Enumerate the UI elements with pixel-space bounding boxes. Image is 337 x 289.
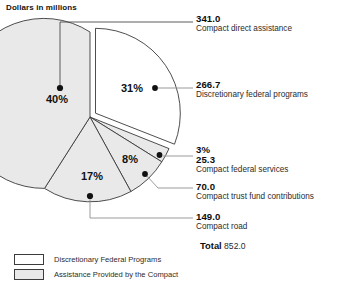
callout-desc-compact-road: Compact road xyxy=(196,222,247,232)
chart-legend: Discretionary Federal Programs Assistanc… xyxy=(14,252,178,282)
callout-desc-federal-services: Compact federal services xyxy=(196,165,288,175)
total-value: 852.0 xyxy=(224,241,246,251)
slice-label-40-percent: 40% xyxy=(46,93,68,105)
total-row: Total 852.0 xyxy=(200,240,246,251)
callout-value-trust-fund: 70.0 xyxy=(196,182,314,192)
legend-label-compact-assistance: Assistance Provided by the Compact xyxy=(54,270,178,279)
slice-label-31-percent: 31% xyxy=(121,82,143,94)
total-label: Total xyxy=(200,240,222,251)
callout-value-discretionary: 266.7 xyxy=(196,80,308,90)
pie-chart-figure: Dollars in millions xyxy=(0,0,337,289)
callout-desc-trust-fund: Compact trust fund contributions xyxy=(196,192,314,202)
callout-compact-road: 149.0 Compact road xyxy=(196,212,247,232)
legend-swatch-compact xyxy=(14,269,44,280)
callout-compact-federal-services: 3% 25.3 Compact federal services xyxy=(196,145,288,175)
legend-item-compact-assistance[interactable]: Assistance Provided by the Compact xyxy=(14,267,178,281)
callout-value-direct-assistance: 341.0 xyxy=(196,14,292,24)
callout-discretionary-federal-programs: 266.7 Discretionary federal programs xyxy=(196,80,308,100)
callout-value-compact-road: 149.0 xyxy=(196,212,247,222)
legend-label-discretionary: Discretionary Federal Programs xyxy=(54,255,161,264)
callout-desc-discretionary: Discretionary federal programs xyxy=(196,90,308,100)
slice-label-8-percent: 8% xyxy=(122,153,138,165)
legend-item-discretionary[interactable]: Discretionary Federal Programs xyxy=(14,252,178,266)
callout-desc-direct-assistance: Compact direct assistance xyxy=(196,24,292,34)
legend-swatch-discretionary xyxy=(14,254,44,265)
callout-compact-trust-fund-contributions: 70.0 Compact trust fund contributions xyxy=(196,182,314,202)
callout-value-federal-services: 25.3 xyxy=(196,155,288,165)
callout-compact-direct-assistance: 341.0 Compact direct assistance xyxy=(196,14,292,34)
slice-label-17-percent: 17% xyxy=(81,170,103,182)
